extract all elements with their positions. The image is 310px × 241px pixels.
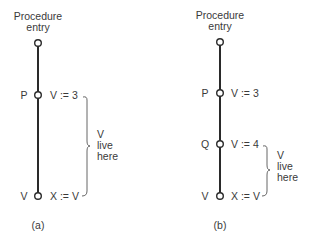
node-q-b — [217, 141, 224, 148]
node-v-label-b: V — [201, 190, 208, 202]
live-label-a-line3: here — [97, 150, 118, 162]
entry-node-b — [217, 39, 224, 46]
node-p-statement-a: V := 3 — [50, 89, 78, 101]
entry-label-b-line2: entry — [208, 20, 232, 32]
node-v-b — [217, 193, 224, 200]
node-p-label-a: P — [20, 89, 27, 101]
caption-a: (a) — [32, 219, 45, 231]
live-range-diagram: Procedure entry P V := 3 V X := V V live… — [0, 0, 310, 241]
caption-b: (b) — [214, 219, 227, 231]
node-p-statement-b: V := 3 — [231, 87, 259, 99]
entry-label-a-line2: entry — [26, 21, 50, 33]
node-v-statement-a: X := V — [50, 190, 79, 202]
node-q-label-b: Q — [201, 138, 209, 150]
diagram-b: Procedure entry P V := 3 Q V := 4 V X :=… — [196, 9, 298, 231]
node-p-b — [217, 90, 224, 97]
node-v-a — [35, 193, 42, 200]
diagram-a: Procedure entry P V := 3 V X := V V live… — [14, 10, 118, 231]
node-q-statement-b: V := 4 — [231, 138, 259, 150]
node-p-label-b: P — [201, 87, 208, 99]
live-range-brace-a — [82, 97, 90, 196]
live-label-b-line3: here — [277, 171, 298, 183]
node-p-a — [35, 92, 42, 99]
node-v-statement-b: X := V — [231, 190, 260, 202]
entry-node-a — [35, 40, 42, 47]
live-range-brace-b — [262, 146, 270, 196]
node-v-label-a: V — [20, 190, 27, 202]
